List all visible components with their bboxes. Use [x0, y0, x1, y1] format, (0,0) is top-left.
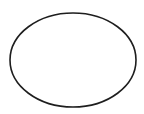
diagram-svg: [0, 0, 144, 114]
diagram-canvas: [0, 0, 144, 114]
ellipse-shape: [10, 13, 136, 107]
